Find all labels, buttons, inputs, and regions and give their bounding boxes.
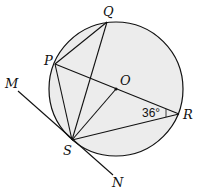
circle-geometry-diagram: Q P O R S M N 36° xyxy=(0,0,200,196)
label-N: N xyxy=(112,176,123,189)
label-S: S xyxy=(63,144,72,157)
label-P: P xyxy=(44,54,53,67)
center-dot-O xyxy=(114,87,117,90)
label-O: O xyxy=(120,74,131,87)
label-Q: Q xyxy=(103,5,114,18)
diagram-svg xyxy=(0,0,200,196)
label-M: M xyxy=(5,77,18,90)
label-R: R xyxy=(183,108,193,121)
angle-label-R: 36° xyxy=(142,107,160,119)
